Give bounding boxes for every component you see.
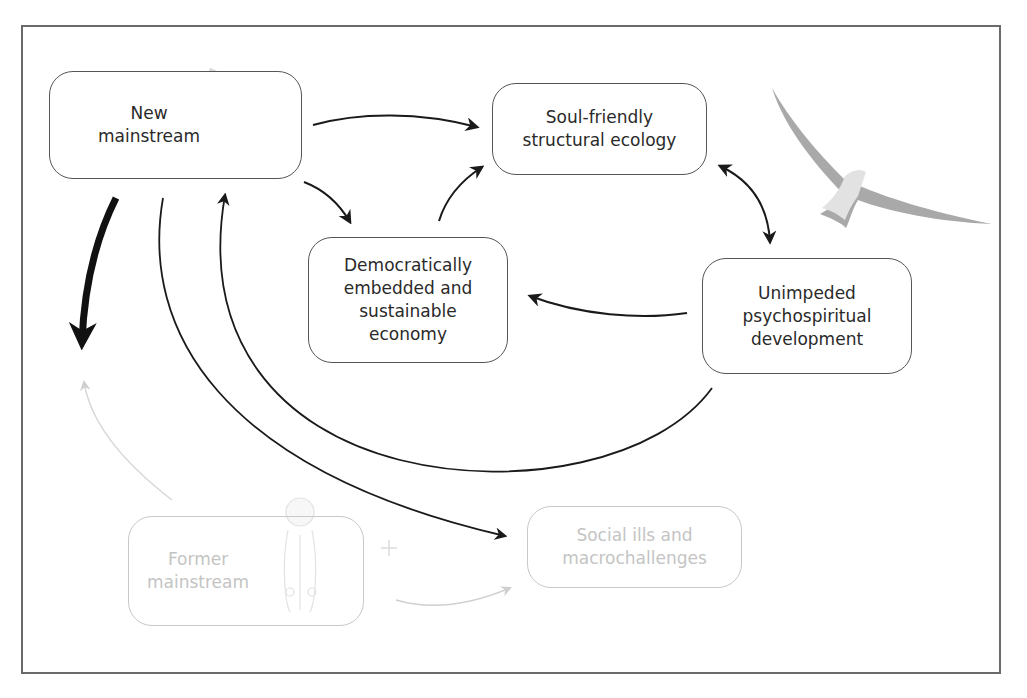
node-social-ills[interactable]: Social ills and macrochallenges bbox=[527, 506, 742, 588]
plus-icon bbox=[381, 540, 397, 556]
node-new-mainstream[interactable]: New mainstream bbox=[49, 71, 302, 179]
edge-former-to-new-faded bbox=[84, 382, 172, 500]
edge-former-to-socialills-faded bbox=[396, 588, 510, 605]
edge-new-to-democratic bbox=[304, 182, 350, 222]
seagull-flying-icon bbox=[772, 88, 992, 228]
node-former-mainstream-label: Former mainstream bbox=[147, 548, 249, 594]
edge-new-to-former-thick bbox=[82, 198, 116, 342]
node-soul-friendly-label: Soul-friendly structural ecology bbox=[523, 106, 677, 152]
node-democratic-economy-label: Democratically embedded and sustainable … bbox=[344, 254, 473, 346]
edge-soul-psycho-bidirectional bbox=[720, 166, 770, 242]
node-social-ills-label: Social ills and macrochallenges bbox=[562, 524, 707, 570]
edge-democratic-to-soul bbox=[439, 167, 482, 221]
node-new-mainstream-label: New mainstream bbox=[98, 102, 200, 148]
edge-new-to-soul bbox=[313, 115, 477, 127]
node-psychospiritual-label: Unimpeded psychospiritual development bbox=[743, 282, 872, 351]
node-soul-friendly[interactable]: Soul-friendly structural ecology bbox=[492, 83, 707, 175]
node-psychospiritual[interactable]: Unimpeded psychospiritual development bbox=[702, 258, 912, 374]
edge-psycho-to-democratic bbox=[530, 296, 687, 316]
node-democratic-economy[interactable]: Democratically embedded and sustainable … bbox=[308, 237, 508, 363]
node-former-mainstream[interactable]: Former mainstream bbox=[128, 516, 364, 626]
